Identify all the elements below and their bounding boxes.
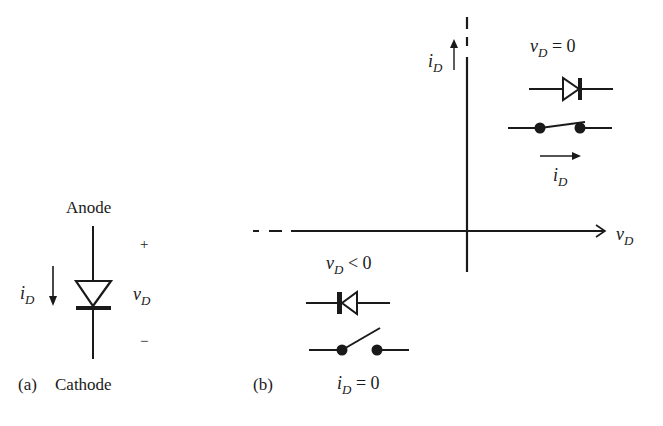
off-condition-label: vD < 0 [326, 253, 372, 277]
cathode-label: Cathode [55, 375, 112, 394]
panel-a: Anode iD + vD − (a) Cathode [18, 198, 151, 394]
closed-switch-icon [508, 122, 612, 133]
on-current-label: iD [553, 165, 568, 189]
current-arrow-down-icon [49, 266, 57, 306]
x-axis-label: vD [616, 224, 634, 248]
panel-b: vD iD vD = 0 [253, 17, 634, 397]
diode-symbol-reverse [306, 292, 390, 314]
diode-symbol-vertical [76, 226, 111, 359]
voltage-label: vD [133, 284, 151, 308]
plus-sign: + [140, 236, 148, 252]
current-arrow-up-icon [450, 39, 458, 70]
open-switch-icon [309, 328, 409, 355]
off-state-group: vD < 0 iD = 0 [306, 253, 409, 397]
minus-sign: − [140, 333, 148, 349]
on-condition-label: vD = 0 [530, 36, 576, 60]
panel-b-tag: (b) [253, 375, 273, 394]
anode-label: Anode [66, 198, 111, 217]
diode-figure: Anode iD + vD − (a) Cathode vD [0, 0, 663, 426]
off-current-label: iD = 0 [337, 373, 380, 397]
diode-symbol-forward [529, 78, 613, 100]
current-label: iD [20, 283, 35, 307]
on-state-group: vD = 0 iD [508, 36, 613, 189]
current-arrow-right-icon [540, 152, 581, 160]
panel-a-tag: (a) [18, 375, 37, 394]
y-axis-label: iD [428, 51, 443, 75]
x-axis [253, 225, 605, 237]
